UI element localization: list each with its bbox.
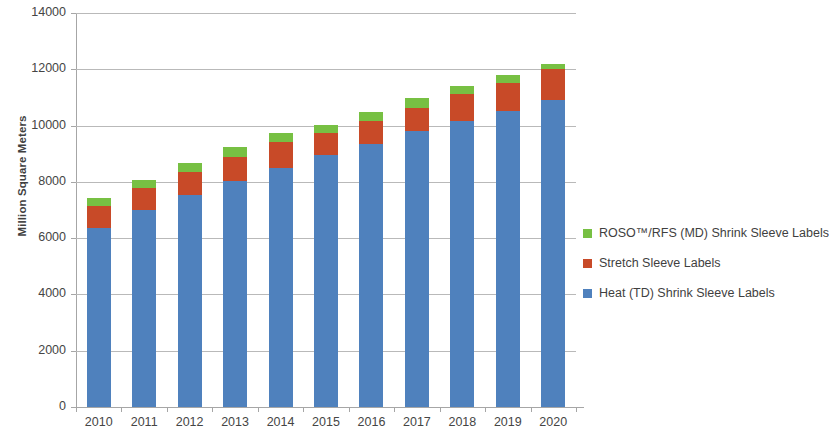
bar-segment-roso[interactable]	[132, 180, 156, 188]
legend-swatch-icon	[583, 289, 592, 298]
bar-segment-stretch[interactable]	[359, 121, 383, 144]
legend-item[interactable]: Heat (TD) Shrink Sleeve Labels	[583, 278, 823, 308]
bar-segment-heat[interactable]	[359, 144, 383, 407]
x-axis-tick	[167, 407, 168, 412]
x-axis-tick	[303, 407, 304, 412]
x-axis-tick	[121, 407, 122, 412]
legend-swatch-icon	[583, 259, 592, 268]
y-axis-tick-labels: 14000120001000080006000400020000	[0, 13, 66, 407]
plot-area: 2010201120122013201420152016201720182019…	[76, 13, 576, 407]
x-axis-tick	[349, 407, 350, 412]
x-axis-line	[76, 407, 584, 408]
gridline	[76, 69, 576, 70]
legend-item-label: Stretch Sleeve Labels	[599, 256, 721, 270]
bar-segment-heat[interactable]	[269, 168, 293, 407]
bar-segment-roso[interactable]	[450, 86, 474, 93]
y-axis-tick-label: 2000	[6, 344, 66, 357]
legend-swatch-icon	[583, 229, 592, 238]
legend-item[interactable]: ROSO™/RFS (MD) Shrink Sleeve Labels	[583, 218, 823, 248]
bar-group[interactable]	[178, 163, 202, 407]
y-axis-tick	[71, 351, 76, 352]
y-axis-tick	[71, 69, 76, 70]
bar-group[interactable]	[405, 98, 429, 407]
x-axis-tick	[485, 407, 486, 412]
bar-group[interactable]	[87, 198, 111, 407]
chart-legend: ROSO™/RFS (MD) Shrink Sleeve LabelsStret…	[583, 218, 823, 308]
y-axis-tick	[71, 182, 76, 183]
bar-segment-stretch[interactable]	[87, 206, 111, 229]
bar-segment-stretch[interactable]	[314, 133, 338, 155]
bar-segment-heat[interactable]	[405, 131, 429, 407]
y-axis-tick-label: 14000	[6, 6, 66, 19]
bar-segment-roso[interactable]	[496, 75, 520, 82]
bar-segment-heat[interactable]	[314, 155, 338, 407]
x-axis-tick	[531, 407, 532, 412]
x-axis-tick	[440, 407, 441, 412]
legend-item-label: ROSO™/RFS (MD) Shrink Sleeve Labels	[599, 226, 829, 240]
bar-segment-heat[interactable]	[541, 100, 565, 407]
bar-segment-roso[interactable]	[87, 198, 111, 206]
bar-segment-stretch[interactable]	[405, 108, 429, 132]
bar-segment-roso[interactable]	[178, 163, 202, 171]
y-axis-tick	[71, 294, 76, 295]
legend-item-label: Heat (TD) Shrink Sleeve Labels	[599, 286, 775, 300]
bar-segment-stretch[interactable]	[223, 157, 247, 181]
y-axis-tick-label: 10000	[6, 119, 66, 132]
y-axis-tick-label: 12000	[6, 62, 66, 75]
bar-group[interactable]	[450, 86, 474, 407]
legend-item[interactable]: Stretch Sleeve Labels	[583, 248, 823, 278]
bar-group[interactable]	[359, 112, 383, 407]
bar-group[interactable]	[223, 147, 247, 407]
bar-segment-heat[interactable]	[223, 181, 247, 407]
bar-segment-roso[interactable]	[314, 125, 338, 134]
bar-group[interactable]	[269, 133, 293, 407]
bar-group[interactable]	[132, 180, 156, 407]
y-axis-tick	[71, 126, 76, 127]
bar-segment-roso[interactable]	[269, 133, 293, 143]
x-axis-tick	[212, 407, 213, 412]
y-axis-tick-label: 4000	[6, 287, 66, 300]
bar-group[interactable]	[541, 64, 565, 407]
bar-segment-heat[interactable]	[178, 195, 202, 407]
bar-segment-stretch[interactable]	[496, 83, 520, 111]
bar-segment-stretch[interactable]	[269, 142, 293, 167]
bar-group[interactable]	[314, 125, 338, 407]
y-axis-tick-label: 6000	[6, 231, 66, 244]
bar-segment-roso[interactable]	[359, 112, 383, 121]
bar-segment-stretch[interactable]	[541, 69, 565, 100]
bar-segment-roso[interactable]	[223, 147, 247, 156]
x-axis-tick	[258, 407, 259, 412]
y-axis-tick	[71, 238, 76, 239]
x-axis-tick	[76, 407, 77, 412]
y-axis-tick	[71, 13, 76, 14]
x-axis-tick	[394, 407, 395, 412]
bar-segment-roso[interactable]	[541, 64, 565, 69]
gridline	[76, 13, 576, 14]
bar-segment-heat[interactable]	[496, 111, 520, 407]
bar-segment-roso[interactable]	[405, 98, 429, 107]
y-axis-tick-label: 0	[6, 400, 66, 413]
bar-segment-stretch[interactable]	[178, 172, 202, 195]
y-axis-line	[76, 13, 77, 407]
y-axis-tick-label: 8000	[6, 175, 66, 188]
x-axis-tick-label: 2020	[523, 415, 583, 429]
bar-segment-heat[interactable]	[87, 228, 111, 407]
x-axis-tick	[576, 407, 577, 412]
bar-group[interactable]	[496, 75, 520, 407]
bar-segment-heat[interactable]	[450, 121, 474, 407]
bar-segment-heat[interactable]	[132, 210, 156, 407]
bar-segment-stretch[interactable]	[450, 94, 474, 122]
bar-segment-stretch[interactable]	[132, 188, 156, 211]
